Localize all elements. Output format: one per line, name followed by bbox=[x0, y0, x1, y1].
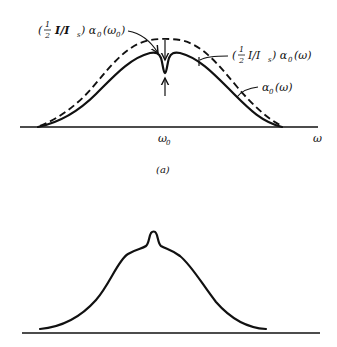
svg-text:0: 0 bbox=[269, 88, 274, 96]
panel-a: ( 1 2 I/I s ) α 0 (ω 0 ) ( 1 2 I/I s ) α… bbox=[20, 20, 322, 175]
annotation-saturated-dip: ( 1 2 I/I s ) α 0 (ω 0 ) bbox=[38, 20, 125, 40]
figure-canvas: ( 1 2 I/I s ) α 0 (ω 0 ) ( 1 2 I/I s ) α… bbox=[0, 0, 337, 347]
svg-text:1: 1 bbox=[239, 45, 244, 54]
svg-text:2: 2 bbox=[238, 56, 244, 65]
center-frequency-label: ω 0 bbox=[158, 132, 171, 147]
panel-b bbox=[22, 232, 320, 334]
peaked-profile-curve bbox=[40, 232, 266, 330]
svg-text:(: ( bbox=[38, 24, 43, 37]
svg-text:) α: ) α bbox=[80, 24, 97, 37]
svg-text:): ) bbox=[120, 24, 125, 37]
svg-text:0: 0 bbox=[97, 31, 102, 39]
svg-text:(ω): (ω) bbox=[275, 81, 293, 94]
svg-text:(ω): (ω) bbox=[294, 49, 312, 62]
panel-a-caption: (a) bbox=[156, 164, 170, 175]
annotation-dashed-curve: ( 1 2 I/I s ) α 0 (ω) bbox=[232, 45, 312, 65]
frequency-axis-label: ω bbox=[313, 132, 322, 145]
svg-text:(ω: (ω bbox=[103, 24, 116, 37]
svg-text:0: 0 bbox=[288, 56, 293, 64]
svg-text:I/I: I/I bbox=[54, 24, 70, 37]
svg-text:1: 1 bbox=[45, 20, 50, 29]
svg-text:I/I: I/I bbox=[247, 49, 261, 62]
unsaturated-gain-curve bbox=[40, 39, 282, 126]
annotation-solid-curve: α 0 (ω) bbox=[262, 81, 293, 96]
svg-text:) α: ) α bbox=[271, 49, 288, 62]
svg-text:(: ( bbox=[232, 49, 237, 62]
svg-text:0: 0 bbox=[166, 139, 171, 147]
leader-solid-curve bbox=[237, 87, 258, 97]
svg-text:2: 2 bbox=[44, 31, 50, 40]
